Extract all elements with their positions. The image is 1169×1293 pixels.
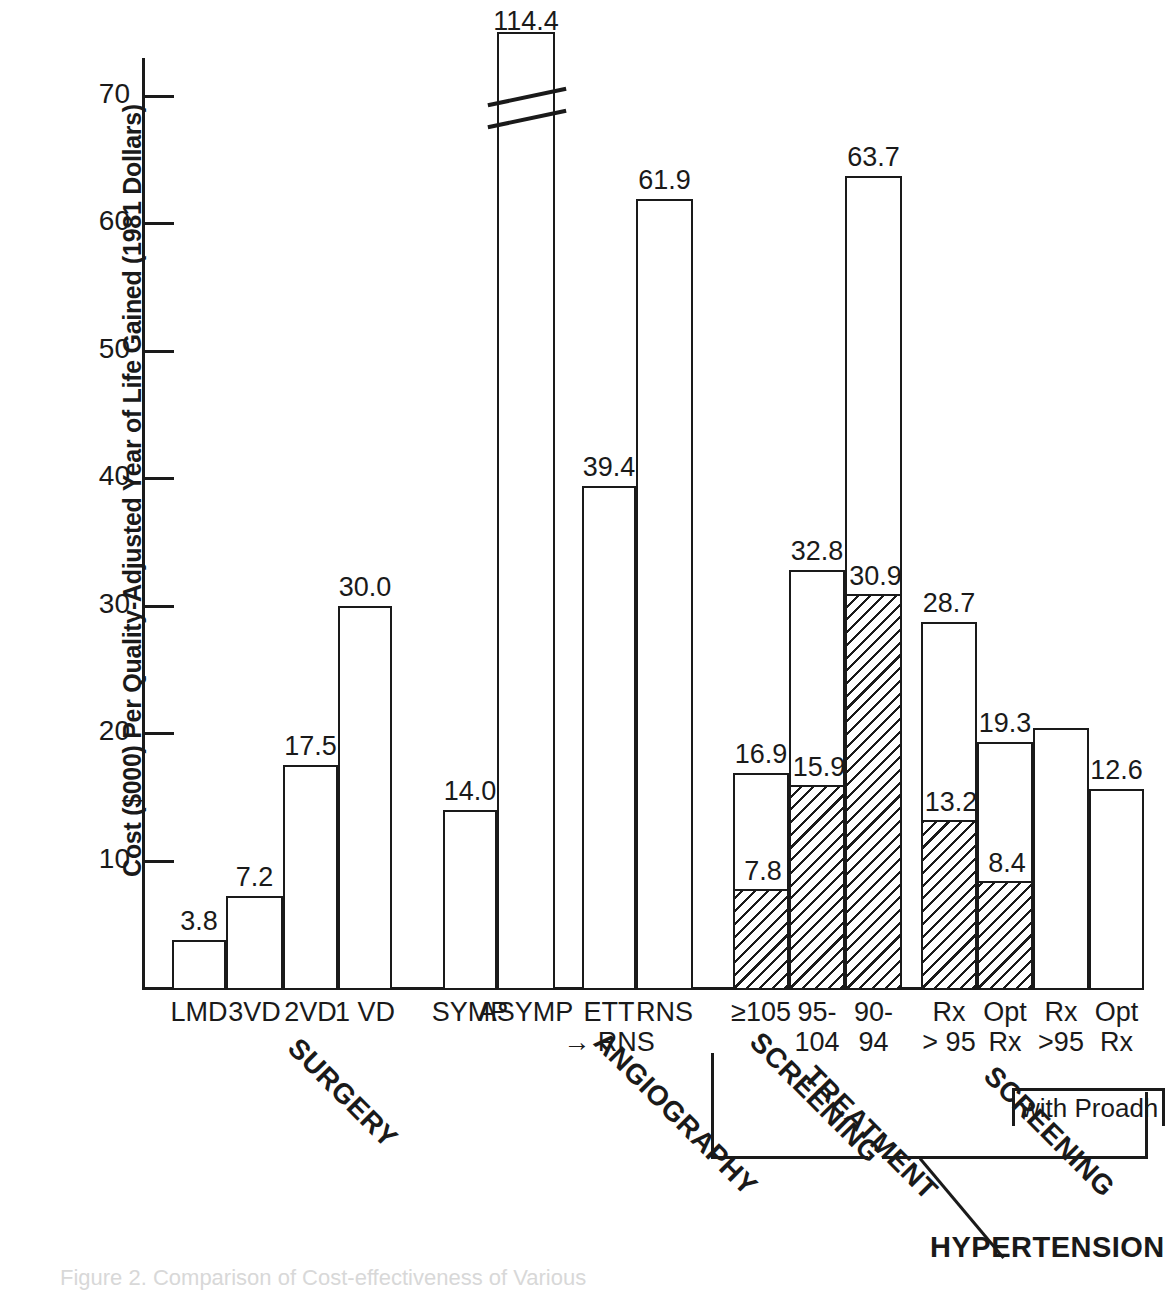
- bar-segment-value-label: 30.9: [849, 563, 902, 590]
- bar-opt-rx[interactable]: [1089, 789, 1144, 988]
- figure-caption: Figure 2. Comparison of Cost-effectivene…: [60, 1265, 586, 1291]
- bar-3vd[interactable]: [226, 896, 283, 988]
- group-label-surgery: SURGERY: [281, 1032, 403, 1154]
- bar-ett-rns[interactable]: [582, 486, 636, 988]
- bar-hatched-segment: [847, 594, 900, 988]
- bar-segment-value-label: 7.8: [744, 858, 782, 885]
- bar-segment-value-label: 8.4: [988, 850, 1026, 877]
- bar-hatched-segment: [791, 785, 843, 988]
- bar-value-label: 19.3: [979, 710, 1032, 737]
- bar-rx-95[interactable]: [1033, 728, 1089, 988]
- group-label-angiography: ANGIOGRAPHY: [587, 1026, 763, 1202]
- bar-hatched-segment: [979, 881, 1031, 988]
- hypertension-label: HYPERTENSION: [930, 1231, 1165, 1264]
- bar-hatched-segment: [923, 820, 975, 988]
- bar-symp[interactable]: [443, 810, 497, 989]
- bar-rns[interactable]: [636, 199, 693, 988]
- bar-value-label: 14.0: [444, 778, 497, 805]
- bar-value-label: 28.7: [923, 590, 976, 617]
- x-label-3: 1 VD: [305, 997, 425, 1027]
- group-label-treatment: TREATMENT: [797, 1060, 943, 1206]
- bar-hatched-segment: [735, 889, 787, 988]
- bar-asymp[interactable]: [497, 32, 555, 988]
- bar-segment-value-label: 13.2: [925, 789, 978, 816]
- bar-value-label: 16.9: [735, 741, 788, 768]
- bar-value-label: 114.4: [493, 8, 559, 35]
- bar-value-label: 12.6: [1090, 757, 1143, 784]
- bar-value-label: 63.7: [847, 144, 900, 171]
- group-label-screening-htn: SCREENING: [977, 1060, 1121, 1204]
- proadherence-note: with Proadh: [1012, 1088, 1165, 1126]
- bar-segment-value-label: 15.9: [793, 754, 846, 781]
- treatment-bracket-left: [711, 1053, 714, 1159]
- bar-value-label: 61.9: [638, 167, 691, 194]
- bars-layer: 3.87.217.530.014.0114.439.461.916.97.832…: [0, 0, 1157, 988]
- x-label-14: Opt Rx: [1057, 997, 1169, 1057]
- bar-value-label: 3.8: [180, 908, 218, 935]
- bar-value-label: 30.0: [339, 574, 392, 601]
- bar-2vd[interactable]: [283, 765, 338, 988]
- bar-value-label: 32.8: [791, 538, 844, 565]
- bar-lmd[interactable]: [172, 940, 226, 988]
- bar-1-vd[interactable]: [338, 606, 392, 989]
- treatment-bracket-bottom: [711, 1156, 868, 1159]
- bar-value-label: 39.4: [583, 454, 636, 481]
- bar-value-label: 17.5: [284, 733, 337, 760]
- bar-value-label: 7.2: [236, 864, 274, 891]
